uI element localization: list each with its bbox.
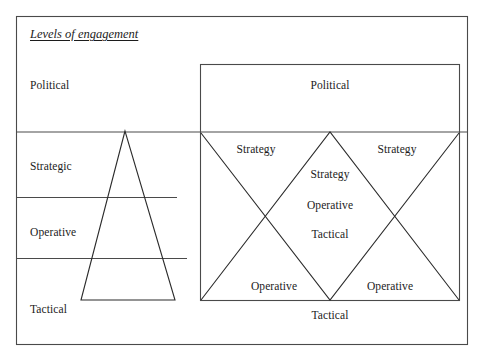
matrix-lower-left-label: Operative — [251, 281, 297, 293]
scale-label-strategic: Strategic — [30, 161, 72, 173]
matrix-lower-right-label: Operative — [367, 281, 413, 293]
matrix-upper-left-label: Strategy — [236, 144, 275, 156]
scale-label-operative: Operative — [30, 227, 76, 239]
zigzag-lower-v — [201, 133, 459, 300]
matrix-center-label-strategy: Strategy — [310, 169, 349, 181]
outer-frame-rect — [17, 17, 468, 345]
engagement-levels-figure: Levels of engagement Political Strategic… — [0, 0, 482, 361]
matrix-top-band-label: Political — [310, 80, 349, 92]
matrix-center-label-operative: Operative — [307, 200, 353, 212]
matrix-upper-right-label: Strategy — [377, 144, 416, 156]
figure-title: Levels of engagement — [30, 27, 138, 42]
zigzag-upper-caret — [201, 132, 459, 300]
scale-label-tactical: Tactical — [30, 304, 67, 316]
left-pyramid-triangle — [81, 131, 175, 300]
matrix-center-label-tactical: Tactical — [311, 229, 348, 241]
figure-vector-layer — [0, 0, 482, 361]
scale-label-political: Political — [30, 80, 69, 92]
matrix-bottom-band-label: Tactical — [311, 310, 348, 322]
